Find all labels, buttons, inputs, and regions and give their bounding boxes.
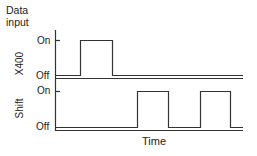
shift-waveform xyxy=(56,92,244,128)
timing-diagram xyxy=(0,0,257,156)
x400-waveform xyxy=(56,41,244,76)
